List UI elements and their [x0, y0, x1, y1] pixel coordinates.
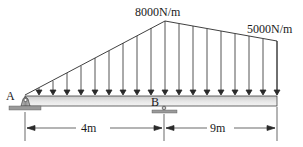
- dimension-lines: [25, 107, 277, 141]
- support-a-label: A: [6, 89, 15, 103]
- peak-load-label: 8000N/m: [135, 5, 181, 19]
- load-arrows: [36, 21, 280, 95]
- diagram-canvas: 8000N/m 5000N/m A B 4m 9m: [0, 0, 303, 147]
- dimension-ab-label: 4m: [81, 121, 97, 135]
- dimension-overhang-label: 9m: [210, 121, 226, 135]
- beam-diagram: 8000N/m 5000N/m A B 4m 9m: [0, 0, 303, 147]
- support-b-label: B: [151, 95, 159, 109]
- end-load-label: 5000N/m: [247, 22, 293, 36]
